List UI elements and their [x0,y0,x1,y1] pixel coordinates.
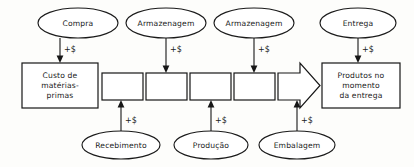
cost-label-armazenagem-1: +$ [170,45,182,54]
start-box: Custo de matérias- primas [22,63,98,108]
activity-node-embalagem[interactable]: Embalagem [259,131,335,159]
activity-node-armazenagem-1[interactable]: Armazenagem [126,8,206,38]
cost-label-entrega: +$ [362,45,374,54]
activity-label-producao: Produção [193,141,230,150]
activity-label-recebimento: Recebimento [95,141,147,150]
cost-label-embalagem: +$ [301,116,313,125]
activity-label-armazenagem-1: Armazenagem [138,19,195,28]
stage-box-2 [146,73,187,100]
connector-recebimento [118,100,125,131]
activity-label-entrega: Entrega [343,19,374,28]
top-connectors [57,38,362,73]
stage-boxes [102,73,275,100]
connector-armazenagem-1 [163,38,170,73]
activity-node-entrega[interactable]: Entrega [320,8,396,38]
flow-arrow-icon [278,63,320,108]
activity-node-recebimento[interactable]: Recebimento [82,131,160,159]
end-box-line-1: Produtos no [338,71,385,80]
connector-armazenagem-2 [251,38,258,73]
stage-box-3 [190,73,231,100]
end-box: Produtos no momento da entrega [322,63,400,108]
activity-node-producao[interactable]: Produção [174,131,248,159]
connector-entrega [355,38,362,63]
start-box-line-1: Custo de [43,71,78,80]
cost-label-producao: +$ [215,116,227,125]
connector-embalagem [294,100,301,131]
end-box-line-2: momento [342,81,380,90]
cost-label-armazenagem-2: +$ [258,45,270,54]
start-box-line-3: primas [47,91,74,100]
stage-box-4 [234,73,275,100]
activity-node-compra[interactable]: Compra [38,8,118,38]
activity-label-embalagem: Embalagem [274,141,321,150]
connector-compra [57,38,64,63]
top-activity-nodes: Compra Armazenagem Armazenagem Entrega [38,8,396,38]
stage-box-1 [102,73,143,100]
bottom-activity-nodes: Recebimento Produção Embalagem [82,131,335,159]
connector-producao [208,100,215,131]
end-box-line-3: da entrega [340,91,383,100]
activity-node-armazenagem-2[interactable]: Armazenagem [214,8,294,38]
activity-label-compra: Compra [63,19,94,28]
start-box-line-2: matérias- [41,81,79,90]
cost-label-recebimento: +$ [125,116,137,125]
diagram-canvas: Custo de matérias- primas Produtos no mo… [0,0,414,167]
cost-label-compra: +$ [64,45,76,54]
activity-label-armazenagem-2: Armazenagem [226,19,283,28]
bottom-connectors [118,100,301,131]
supply-chain-cost-diagram: Custo de matérias- primas Produtos no mo… [0,0,414,167]
